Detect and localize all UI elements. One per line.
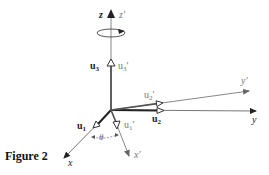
figure-caption: Figure 2 [5,149,48,164]
z-axis-label: z [99,10,103,20]
x-axis [64,110,111,158]
y-axis-label: y [252,115,256,125]
y-prime-axis-label: y′ [241,76,248,86]
u1-prime-label: u1′ [124,120,135,132]
u3-label: u3 [90,61,99,73]
theta-arc [91,133,119,139]
x-prime-axis [111,110,129,156]
z-prime-axis-label: z′ [119,10,125,20]
x-axis-label: x [68,158,72,168]
u2-prime-label: u2′ [144,90,155,102]
theta-label: θ [99,133,103,142]
u1-label: u1 [77,121,86,133]
u3-prime-label: u3′ [118,61,129,73]
y-prime-axis [111,91,249,110]
x-prime-axis-label: x′ [134,150,141,160]
y-axis [111,108,256,114]
u3-arrow-icon [107,59,115,66]
u2-label: u2 [152,114,161,126]
